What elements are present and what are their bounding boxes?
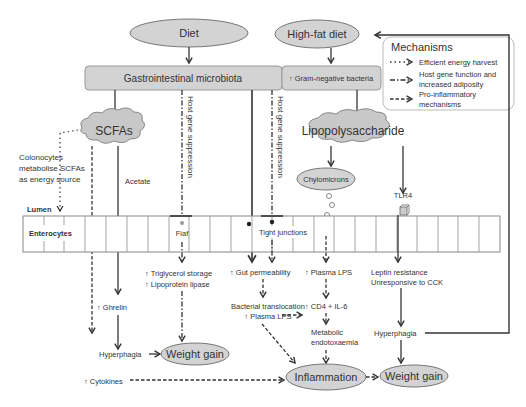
unresponsive-cck-label: Unresponsive to CCK: [371, 278, 443, 287]
diet-label: Diet: [179, 27, 199, 39]
cd4-il6-label: ↑ CD4 + IL-6: [305, 302, 347, 311]
host-gene-suppression-label-1: Host gene suppression: [186, 96, 195, 178]
tlr4-receptor-icon: [400, 205, 409, 215]
lipoprotein-lipase-label: ↑ Lipoprotein lipase: [145, 280, 210, 289]
hyperphagia-right-label: Hyperphagia: [374, 329, 417, 338]
triglycerol-storage-label: ↑ Triglycerol storage: [145, 269, 212, 278]
legend-item-host-gene-2: increased adiposity: [419, 80, 483, 89]
bacterial-translocation-label: Bacterial translocation: [231, 302, 305, 311]
plasma-lps-label-2: ↑ Plasma LPS: [244, 312, 291, 321]
legend-item-inflammatory-1: Pro-inflammatory: [419, 90, 476, 99]
colonocytes-label-2: metabolise SCFAs: [19, 164, 85, 173]
cytokines-label: ↑ Cytokines: [84, 377, 123, 386]
weight-gain-right-label: Weight gain: [385, 370, 443, 382]
chylomicrons-label: Chylomicrons: [303, 175, 349, 184]
enterocytes-label: Enterocytes: [29, 229, 72, 238]
colonocytes-label-3: as energy source: [19, 175, 81, 184]
diagram-canvas: Mechanisms Efficient energy harvest Host…: [0, 0, 526, 407]
leptin-resistance-label: Leptin resistance: [371, 268, 428, 277]
gram-negative-label: ↑ Gram-negative bacteria: [289, 74, 374, 83]
metabolic-label-2: endotoxaemia: [311, 338, 359, 347]
scfas-label: SCFAs: [95, 124, 132, 138]
lipopolysaccharide-label: Lipopolysaccharide: [302, 124, 405, 138]
tight-junctions-label: Tight junctions: [259, 228, 307, 237]
plasma-lps-label-1: ↑ Plasma LPS: [305, 268, 352, 277]
acetate-label: Acetate: [125, 177, 150, 186]
lumen-label: Lumen: [27, 205, 52, 214]
hyperphagia-left-label: Hyperphagia: [99, 350, 142, 359]
gut-permeability-label: ↑ Gut permeability: [230, 268, 291, 277]
weight-gain-left-label: Weight gain: [166, 348, 224, 360]
inflammation-label: Inflammation: [295, 371, 358, 383]
fiaf-label: Fiaf: [176, 229, 189, 238]
lipopolysaccharide-node: Lipopolysaccharide: [302, 109, 405, 143]
tlr4-label: TLR4: [394, 191, 412, 200]
metabolic-label-1: Metabolic: [311, 328, 343, 337]
ghrelin-label: ↑ Ghrelin: [97, 303, 127, 312]
legend-title: Mechanisms: [391, 41, 453, 53]
legend-item-energy: Efficient energy harvest: [419, 58, 498, 67]
gi-microbiota-label: Gastrointestinal microbiota: [124, 73, 243, 84]
legend-item-host-gene-1: Host gene function and: [419, 70, 496, 79]
legend-box: Mechanisms Efficient energy harvest Host…: [383, 37, 514, 110]
scfas-node: SCFAs: [81, 108, 145, 143]
colonocytes-label-1: Colonocytes: [19, 153, 63, 162]
host-gene-suppression-label-2: Host gene suppression: [276, 96, 285, 178]
legend-item-inflammatory-2: mechanisms: [419, 100, 461, 109]
high-fat-diet-label: High-fat diet: [287, 28, 346, 40]
